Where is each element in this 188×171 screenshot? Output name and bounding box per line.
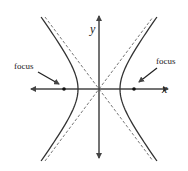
right-focus-arrow (139, 68, 157, 82)
left-focus-label: focus (14, 61, 34, 71)
diagram-canvas: focus focus y x (0, 0, 188, 171)
right-focus-point (132, 87, 136, 91)
left-focus-point (62, 87, 66, 91)
focus-pointers (38, 68, 157, 84)
x-axis-label: x (161, 82, 168, 96)
y-axis-label: y (89, 22, 96, 36)
hyperbola-diagram: focus focus y x (0, 0, 188, 171)
right-focus-label: focus (156, 56, 176, 66)
left-focus-arrow (38, 72, 59, 84)
